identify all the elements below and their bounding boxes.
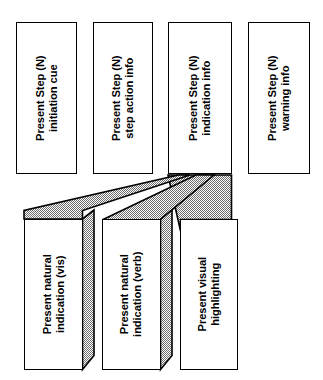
node-label: Present natural indication (vis) xyxy=(40,255,66,335)
node-present-step-action-info[interactable]: Present Step (N) step action info xyxy=(93,22,153,174)
side-face-child-2 xyxy=(161,210,173,370)
node-present-step-warning-info[interactable]: Present Step (N) warning info xyxy=(248,22,310,174)
diagram-canvas: Present Step (N) initiation cue Present … xyxy=(0,0,323,380)
node-present-natural-indication-vis[interactable]: Present natural indication (vis) xyxy=(24,219,83,370)
node-label: Present natural indication (verb) xyxy=(118,252,144,337)
side-face-child-1 xyxy=(83,210,95,370)
node-present-step-initiation-cue[interactable]: Present Step (N) initiation cue xyxy=(16,22,77,174)
node-present-visual-highlighting[interactable]: Present visual highlighting xyxy=(180,219,238,370)
node-label: Present visual highlighting xyxy=(196,257,222,331)
node-label: Present Step (N) warning info xyxy=(266,55,292,140)
node-present-step-indication-info[interactable]: Present Step (N) indication info xyxy=(168,22,232,174)
node-present-natural-indication-verb[interactable]: Present natural indication (verb) xyxy=(102,219,161,370)
node-label: Present Step (N) indication info xyxy=(187,55,213,140)
node-label: Present Step (N) initiation cue xyxy=(33,55,59,140)
node-label: Present Step (N) step action info xyxy=(110,55,136,140)
